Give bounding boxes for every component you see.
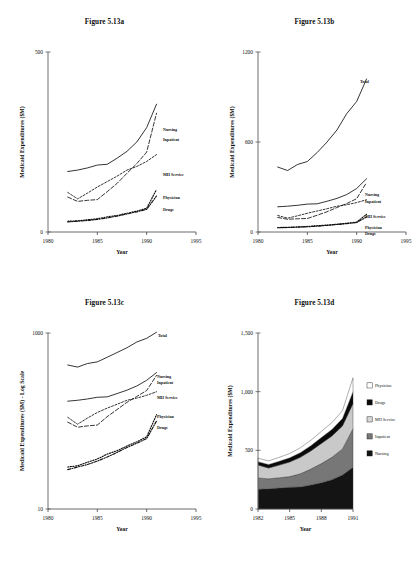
series-line-inpatient — [278, 183, 367, 220]
y-tick-label: 500 — [35, 49, 43, 55]
panel-figure-c: Figure 5.13c 1010001980198519901995YearM… — [0, 281, 209, 561]
y-tick-label: 1000 — [32, 330, 43, 336]
panel-d-plot: 05001,0001,5001982198519881991YearMedica… — [210, 281, 419, 561]
legend-label: Nursing — [375, 451, 389, 456]
panel-figure-b: Figure 5.13b 060012001980198519901995Yea… — [210, 0, 419, 280]
x-tick-label: 1988 — [316, 515, 327, 521]
x-tick-label: 1980 — [253, 238, 264, 244]
y-axis-label: Medicaid Expenditures ($M) — [229, 106, 236, 177]
series-line-total — [278, 79, 367, 171]
y-tick-label: 1,000 — [241, 389, 253, 395]
series-line-inpatient — [68, 113, 157, 201]
figure-sheet: Figure 5.13a 05001980198519901995YearMed… — [0, 0, 419, 561]
series-line-mh-service — [68, 392, 157, 424]
series-line-physician — [278, 214, 367, 227]
y-tick-label: 1200 — [242, 49, 253, 55]
x-tick-label: 1995 — [401, 238, 412, 244]
legend-swatch — [367, 383, 372, 388]
legend-item-inpatient[interactable]: Inpatient — [367, 434, 391, 439]
x-tick-label: 1990 — [141, 515, 152, 521]
y-axis-label: Medicaid Expenditures ($M) — [227, 385, 234, 456]
panel-figure-a: Figure 5.13a 05001980198519901995YearMed… — [0, 0, 209, 280]
y-axis-label: Medicaid Expenditures ($M) - Log Scale — [19, 370, 26, 471]
series-label-physician: Physician — [157, 414, 175, 419]
series-line-drugs — [278, 217, 367, 228]
series-label-total: Total — [158, 333, 168, 338]
chart-a-svg: 05001980198519901995YearMedicaid Expendi… — [0, 0, 209, 280]
y-tick-label: 0 — [250, 229, 253, 235]
legend-item-physician[interactable]: Physician — [367, 383, 392, 388]
series-label-physician: Physician — [163, 195, 181, 200]
series-label-nursing: Nursing — [157, 374, 171, 379]
x-tick-label: 1985 — [284, 515, 295, 521]
series-line-nursing — [278, 179, 367, 207]
x-tick-label: 1985 — [92, 238, 103, 244]
legend-swatch — [367, 417, 372, 422]
series-label-total: Total — [360, 79, 370, 84]
panel-b-plot: 060012001980198519901995YearMedicaid Exp… — [210, 0, 419, 280]
series-line-drugs — [68, 421, 157, 470]
series-label-physician: Physician — [365, 225, 383, 230]
legend-label: MH Service — [375, 417, 395, 422]
chart-c-svg: 1010001980198519901995YearMedicaid Expen… — [0, 281, 209, 561]
series-label-inpatient: Inpatient — [157, 380, 174, 385]
legend-swatch — [367, 451, 372, 456]
series-label-nursing: Nursing — [163, 127, 177, 132]
series-label-inpatient: Inpatient — [365, 199, 382, 204]
y-tick-label: 1,500 — [241, 330, 253, 336]
x-tick-label: 1995 — [191, 515, 202, 521]
x-tick-label: 1980 — [43, 515, 54, 521]
y-tick-label: 10 — [38, 506, 44, 512]
y-tick-label: 0 — [40, 229, 43, 235]
chart-b-svg: 060012001980198519901995YearMedicaid Exp… — [210, 0, 419, 280]
x-tick-label: 1980 — [43, 238, 54, 244]
x-axis-label: Year — [116, 249, 128, 255]
y-tick-label: 0 — [250, 506, 253, 512]
series-label-mh-service: MH Service — [365, 214, 386, 219]
legend-item-nursing[interactable]: Nursing — [367, 451, 389, 456]
series-label-drugs: Drugs — [163, 207, 174, 212]
series-label-nursing: Nursing — [365, 192, 379, 197]
legend-item-mh-service[interactable]: MH Service — [367, 417, 395, 422]
x-tick-label: 1990 — [141, 238, 152, 244]
series-line-inpatient — [68, 375, 157, 427]
chart-d-svg: 05001,0001,5001982198519881991YearMedica… — [210, 281, 419, 561]
legend-label: Inpatient — [375, 434, 391, 439]
legend-label: Drugs — [375, 400, 386, 405]
legend-label: Physician — [375, 383, 392, 388]
legend-swatch — [367, 434, 372, 439]
x-tick-label: 1995 — [191, 238, 202, 244]
x-tick-label: 1985 — [302, 238, 313, 244]
series-label-mh-service: MH Service — [157, 395, 178, 400]
x-axis-label: Year — [326, 249, 338, 255]
x-tick-label: 1982 — [253, 515, 264, 521]
series-line-nursing — [68, 373, 157, 402]
series-line-total — [68, 332, 157, 367]
legend-item-drugs[interactable]: Drugs — [367, 400, 386, 405]
series-label-mh-service: MH Service — [163, 172, 184, 177]
x-tick-label: 1991 — [348, 515, 359, 521]
x-tick-label: 1985 — [92, 515, 103, 521]
y-axis-label: Medicaid Expenditures ($M) — [19, 106, 26, 177]
x-tick-label: 1990 — [351, 238, 362, 244]
series-line-physician — [68, 190, 157, 222]
series-label-drugs: Drugs — [157, 425, 168, 430]
series-label-drugs: Drugs — [365, 231, 376, 236]
x-axis-label: Year — [116, 526, 128, 532]
x-axis-label: Year — [300, 526, 312, 532]
series-line-nursing — [68, 104, 157, 171]
y-tick-label: 600 — [245, 139, 253, 145]
y-tick-label: 500 — [245, 447, 253, 453]
legend-swatch — [367, 400, 372, 405]
panel-c-plot: 1010001980198519901995YearMedicaid Expen… — [0, 281, 209, 561]
panel-figure-d: Figure 5.13d 05001,0001,5001982198519881… — [210, 281, 419, 561]
series-label-inpatient: Inpatient — [163, 137, 180, 142]
panel-a-plot: 05001980198519901995YearMedicaid Expendi… — [0, 0, 209, 280]
